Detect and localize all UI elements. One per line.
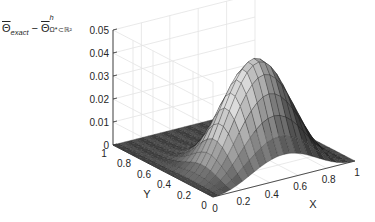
y-axis-label: Y: [143, 188, 151, 200]
z-tick-label: 0.05: [90, 25, 110, 36]
x-tick-label: 0: [212, 203, 218, 214]
y-tick-label: 1: [101, 148, 107, 159]
grid-line: [113, 40, 255, 76]
y-tick-label: 0.2: [177, 190, 191, 201]
z-tick-label: 0.01: [90, 117, 110, 128]
grid-line: [113, 17, 255, 53]
y-tick-label: 0.8: [117, 158, 131, 169]
x-tick-label: 0.4: [265, 189, 279, 200]
z-tick: [113, 98, 117, 99]
x-axis-label: X: [309, 198, 317, 210]
x-tick-label: 0.8: [322, 174, 336, 185]
z-tick-label: 0.02: [90, 94, 110, 105]
x-tick-label: 0.6: [293, 181, 307, 192]
x-tick-label: 1: [354, 167, 360, 178]
z-tick: [113, 29, 117, 30]
grid-line: [113, 0, 255, 30]
z-tick-label: 0.04: [90, 48, 110, 59]
y-tick-label: 0.4: [157, 179, 171, 190]
z-tick-label: 0.03: [90, 71, 110, 82]
y-tick-label: 0: [201, 200, 207, 211]
surface-plot: 00.010.020.030.040.0500.20.40.60.8100.20…: [0, 0, 375, 222]
z-tick: [113, 121, 117, 122]
z-tick: [113, 75, 117, 76]
z-tick: [113, 52, 117, 53]
y-tick-label: 0.6: [137, 169, 151, 180]
x-tick-label: 0.2: [236, 196, 250, 207]
